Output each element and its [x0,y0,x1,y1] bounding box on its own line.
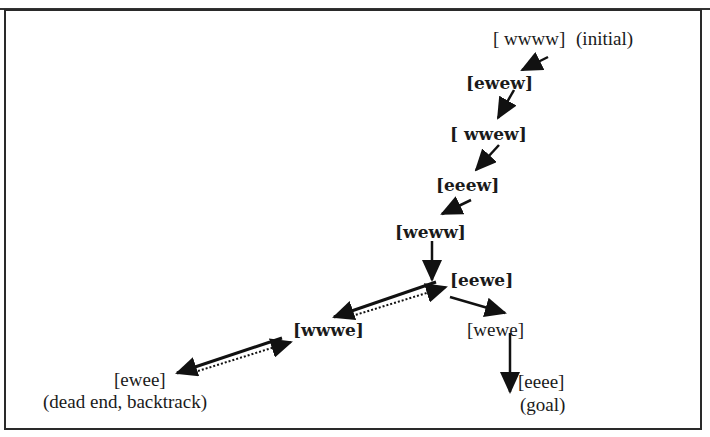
node-ewew: [ewew] [466,73,533,93]
node-ewee-note: (dead end, backtrack) [43,392,207,412]
node-eeee: [eeee] [518,372,564,392]
edge-wwwe-ewee [177,338,282,373]
node-weww: [weww] [395,222,466,242]
edge-eewe-wewe [450,297,505,313]
node-eewe: [eewe] [450,270,513,290]
node-note: (goal) [520,394,565,415]
node-label: [eeew] [436,175,499,195]
node-wwew: [ wwew] [450,124,527,144]
node-eeee-note: (goal) [520,395,565,415]
edge-eewe-wwwe [334,282,436,317]
edge-wwwe-eewe-backtrack [352,287,446,316]
node-note: (dead end, backtrack) [43,391,207,412]
edges-layer [0,0,710,437]
node-wwwe: [wwwe] [293,320,364,340]
node-label: [ewee] [114,369,166,390]
node-wwww: [ wwww] (initial) [493,29,633,49]
edge-ewee-wwwe-backtrack [198,342,291,371]
node-label: [eewe] [450,270,513,290]
node-note: (initial) [576,28,633,49]
node-ewee: [ewee] [114,370,166,390]
node-label: [ewew] [466,73,533,93]
node-label: [ wwww] [493,28,565,49]
node-label: [eeee] [518,371,564,392]
edge-wwww-ewew [522,57,548,70]
node-label: [ wwew] [450,124,527,144]
edge-eeew-weww [442,200,471,214]
node-eeew: [eeew] [436,175,499,195]
node-label: [wwwe] [293,320,364,340]
node-label: [wewe] [467,319,524,340]
node-label: [weww] [395,222,466,242]
edge-ewew-wwew [498,90,514,118]
edge-wwew-eeew [476,145,499,170]
node-wewe: [wewe] [467,320,524,340]
